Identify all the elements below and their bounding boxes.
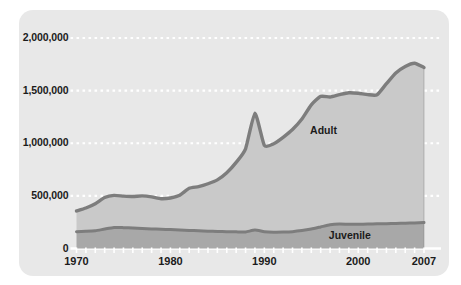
y-axis-tick-label: 500,000 [31, 189, 68, 201]
adult-area [77, 63, 425, 232]
x-axis-tick-label: 1970 [47, 255, 107, 267]
y-axis-tick-label: 2,000,000 [23, 31, 69, 43]
area-chart-plot [0, 0, 461, 285]
y-axis-tick-label: 1,500,000 [23, 84, 69, 96]
x-axis-tick-label: 2007 [394, 255, 454, 267]
y-axis-tick-label: 1,000,000 [23, 136, 69, 148]
series-label-juvenile: Juvenile [329, 229, 371, 241]
x-axis-tick-label: 1990 [234, 255, 294, 267]
x-axis-tick-label: 1980 [140, 255, 200, 267]
series-label-adult: Adult [310, 124, 337, 136]
y-axis-tick-label: 0 [63, 242, 69, 254]
x-axis-tick-label: 2000 [328, 255, 388, 267]
